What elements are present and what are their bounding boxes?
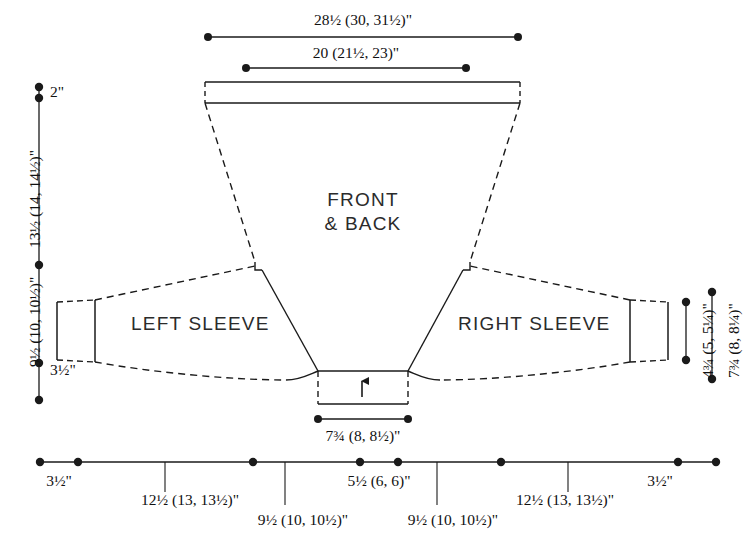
dimension-label-top-inner-width: 20 (21½, 23)" [313,45,399,61]
body-piece-label-line1: FRONT [325,188,402,212]
dimension-label-bottom-center: 5½ (6, 6)" [347,473,410,489]
dimension-label-hem-depth: 3½" [50,362,76,378]
dimension-label-cuff-depth: 4¾ (5, 5¼)" [700,303,716,378]
center-hem-box [318,371,408,404]
left-cuff-rectangle [57,300,95,362]
dimension-label-center-bottom-width: 7¾ (8, 8½)" [326,428,401,444]
dimension-label-lower-body: 9½ (10, 10½)" [27,277,43,367]
dimension-label-upper-body: 13½ (14, 14½)" [27,150,43,248]
dimension-label-top-outer-width: 28½ (30, 31½)" [314,12,412,28]
right-sleeve-label: RIGHT SLEEVE [458,312,610,336]
body-piece-label-line2: & BACK [325,212,402,236]
top-outer-dimension-line [204,33,522,41]
dimension-label-neck-band: 2" [50,84,64,100]
left-sleeve-label: LEFT SLEEVE [131,312,270,336]
dimension-label-sleeve-depth: 7¾ (8, 8¼)" [726,303,742,378]
dimension-label-bottom-left-sleeve: 12½ (13, 13½)" [141,492,239,508]
right-cuff-dimension-line [682,298,690,364]
body-piece-label: FRONT & BACK [325,188,402,236]
dimension-label-bottom-right-sleeve: 12½ (13, 13½)" [516,492,614,508]
top-inner-dimension-line [242,64,470,72]
garment-schematic: 28½ (30, 31½)" 20 (21½, 23)" 2" 13½ (14,… [0,0,755,542]
dimension-label-bottom-left-underarm: 9½ (10, 10½)" [258,512,348,528]
dimension-label-bottom-right-edge: 3½" [647,473,673,489]
bottom-dimension-line [36,458,720,466]
neckband-rectangle [205,82,520,103]
dimension-label-bottom-left-edge: 3½" [46,473,72,489]
schematic-drawing [0,0,755,542]
center-bottom-dimension-line [314,415,412,423]
right-cuff-rectangle [630,300,668,362]
dimension-label-bottom-right-underarm: 9½ (10, 10½)" [408,512,498,528]
